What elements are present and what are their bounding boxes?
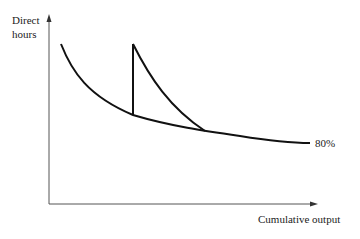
x-axis-arrow-icon	[310, 202, 318, 207]
y-axis-label-line2: hours	[12, 28, 36, 41]
y-axis-arrow-icon	[47, 14, 52, 22]
y-axis-label-line1: Direct	[12, 14, 39, 27]
x-axis-label: Cumulative output	[258, 213, 340, 226]
curve-label: 80%	[315, 137, 335, 150]
learning-curve-diagram	[0, 0, 360, 239]
learning-curve	[61, 44, 310, 143]
